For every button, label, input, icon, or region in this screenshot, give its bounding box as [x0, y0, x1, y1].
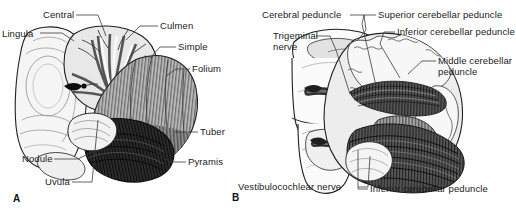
label-lingula: Lingula: [2, 29, 33, 40]
label-uvula: Uvula: [45, 177, 70, 188]
label-pyramis: Pyramis: [188, 157, 223, 168]
label-folium: Folium: [192, 64, 221, 75]
panel-letter-a: A: [13, 193, 20, 204]
label-trigeminal: Trigeminal: [273, 31, 318, 42]
label-vestibulocochlear-nerve: Vestibulocochlear nerve: [238, 182, 341, 193]
panel-a: Central Lingula Culmen Simple Folium Tub…: [0, 0, 258, 215]
label-tuber: Tuber: [200, 127, 225, 138]
label-cerebral-peduncle: Cerebral peduncle: [262, 10, 341, 21]
panel-a-illustration: [0, 0, 258, 215]
label-superior-cerebellar-peduncle: Superior cerebellar peduncle: [378, 10, 502, 21]
label-nodule: Nodule: [22, 154, 53, 165]
label-trigeminal-nerve-line2: nerve: [273, 42, 297, 53]
label-inferior-cerebellar-peduncle-top: Inferior cerebellar peduncle: [397, 27, 515, 38]
label-simple: Simple: [178, 42, 208, 53]
label-middle-cerebellar: Middle cerebellar: [438, 56, 512, 67]
anatomy-figure: Central Lingula Culmen Simple Folium Tub…: [0, 0, 516, 215]
label-central: Central: [43, 10, 74, 21]
label-middle-cerebellar-line2: peduncle: [438, 67, 477, 78]
panel-b: Cerebral peduncle Trigeminal nerve Super…: [258, 0, 516, 215]
label-culmen: Culmen: [160, 21, 193, 32]
uvula-a: [68, 113, 117, 151]
label-inferior-cerebellar-peduncle-bottom: Inferior cerebellar peduncle: [370, 184, 488, 195]
panel-letter-b: B: [232, 192, 239, 203]
